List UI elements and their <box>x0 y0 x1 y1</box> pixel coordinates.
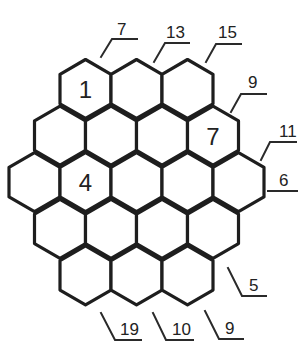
clue-leader-top-2 <box>154 43 189 62</box>
clue-leader-top-1 <box>101 39 137 57</box>
hex-grid <box>9 60 264 305</box>
clue-right-middle: 6 <box>279 171 288 190</box>
clue-top-1: 7 <box>117 20 126 39</box>
clue-lower-right: 5 <box>249 276 258 295</box>
given-number: 4 <box>79 169 92 196</box>
clue-upper-right-2: 11 <box>279 122 297 141</box>
given-number: 7 <box>206 123 219 150</box>
clue-leader-lower-right <box>228 268 266 296</box>
clue-bottom-2: 10 <box>172 320 191 339</box>
clue-top-2: 13 <box>166 23 185 42</box>
clue-leader-upper-right-1 <box>231 94 266 112</box>
clue-leader-upper-right-2 <box>261 142 296 160</box>
hex-sum-puzzle: 174 7 13 15 9 11 6 5 9 10 19 <box>0 0 301 353</box>
puzzle-diagram: 174 7 13 15 9 11 6 5 9 10 19 <box>0 0 301 353</box>
clue-top-3: 15 <box>218 23 237 42</box>
clue-upper-right-1: 9 <box>248 73 257 92</box>
clue-leader-bottom-3 <box>205 311 243 339</box>
clue-bottom-1: 19 <box>120 320 139 339</box>
clue-leader-top-3 <box>206 44 241 62</box>
clue-bottom-3: 9 <box>225 319 234 338</box>
given-number: 1 <box>79 76 92 103</box>
hex-cell <box>162 246 213 305</box>
hex-cell <box>60 246 111 305</box>
hex-cell <box>111 246 162 305</box>
